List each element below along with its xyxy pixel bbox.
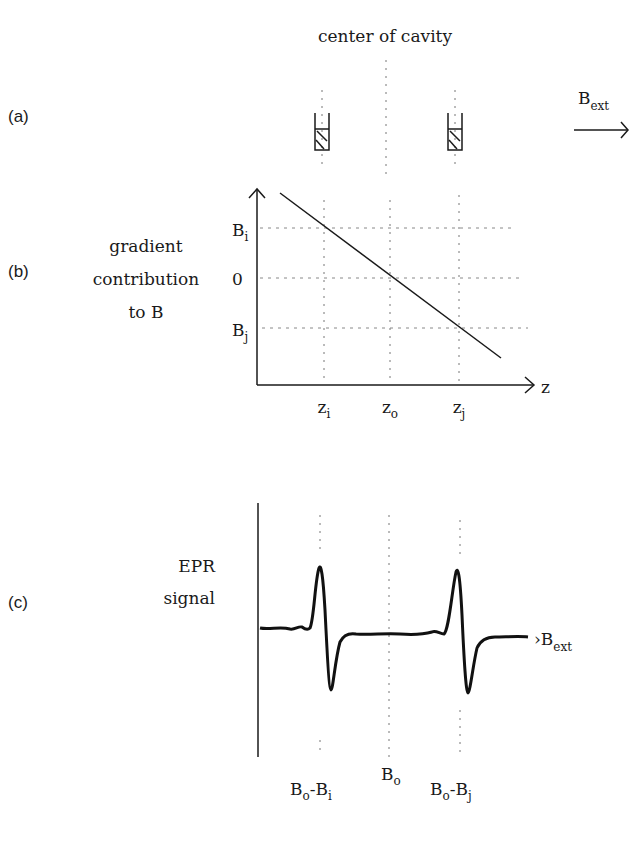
panel-b-label: (b) <box>8 262 29 281</box>
xtick-zj: zj <box>453 397 466 421</box>
epr-ylabel-line1: EPR <box>178 556 216 576</box>
panel-c-label: (c) <box>8 593 28 612</box>
ytick-zero: 0 <box>232 269 243 289</box>
xtick-zo: zo <box>382 397 398 421</box>
epr-ylabel-line2: signal <box>163 588 215 608</box>
gradient-axes <box>249 189 534 393</box>
gradient-ylabel-line1: gradient <box>109 236 182 256</box>
ytick-bi: Bi <box>232 220 249 244</box>
xtick-bo: Bo <box>381 764 401 788</box>
bext-arrow-icon <box>574 122 628 138</box>
bext-axis-label: ›Bext <box>534 629 572 654</box>
x-axis-label-z: z <box>541 377 550 397</box>
panel-a-label: (a) <box>8 107 29 126</box>
xtick-bo-minus-bj: Bo-Bj <box>430 779 472 803</box>
epr-signal-trace <box>260 567 528 693</box>
xtick-zi: zi <box>318 397 331 421</box>
center-of-cavity-label: center of cavity <box>318 26 452 46</box>
epr-gradient-figure: center of cavity (a) Bext (b) gradient c… <box>0 0 638 842</box>
xtick-bo-minus-bi: Bo-Bi <box>290 779 332 803</box>
gradient-ylabel-line2: contribution <box>93 269 199 289</box>
bext-arrow-label: Bext <box>578 88 609 113</box>
gradient-ylabel-line3: to B <box>129 302 164 322</box>
ytick-bj: Bj <box>232 320 248 344</box>
